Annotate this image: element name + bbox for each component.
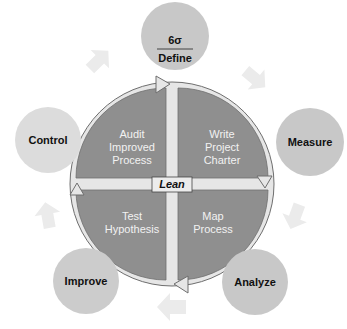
- phase-analyze: Analyze: [222, 249, 288, 315]
- arrow-improve-to-control-icon: [32, 200, 62, 230]
- phase-measure: Measure: [276, 108, 344, 176]
- six-sigma-label: 6σ: [168, 34, 182, 46]
- svg-text:Improved: Improved: [109, 141, 155, 153]
- improve-label: Improve: [65, 275, 108, 287]
- svg-text:Process: Process: [193, 223, 233, 235]
- svg-text:Project: Project: [205, 141, 239, 153]
- arrow-measure-to-analyze-icon: [278, 200, 311, 233]
- arrow-analyze-to-improve-icon: [157, 293, 186, 321]
- svg-text:Hypothesis: Hypothesis: [105, 223, 160, 235]
- control-label: Control: [28, 134, 67, 146]
- analyze-label: Analyze: [234, 276, 276, 288]
- arrow-control-to-define-icon: [81, 41, 118, 78]
- svg-text:Map: Map: [202, 210, 223, 222]
- arrow-define-to-measure-icon: [237, 61, 274, 98]
- phase-control: Control: [15, 107, 81, 173]
- svg-text:Charter: Charter: [204, 154, 241, 166]
- svg-text:Test: Test: [122, 210, 142, 222]
- svg-text:Audit: Audit: [119, 128, 144, 140]
- lean-six-sigma-cycle-diagram: Lean Write Project Charter Audit Improve…: [0, 0, 347, 329]
- measure-label: Measure: [288, 136, 333, 148]
- define-label: Define: [158, 52, 192, 64]
- phase-define: 6σ Define: [141, 2, 209, 70]
- lean-label: Lean: [159, 178, 185, 190]
- svg-text:Process: Process: [112, 154, 152, 166]
- phase-improve: Improve: [53, 248, 119, 314]
- svg-text:Write: Write: [209, 128, 234, 140]
